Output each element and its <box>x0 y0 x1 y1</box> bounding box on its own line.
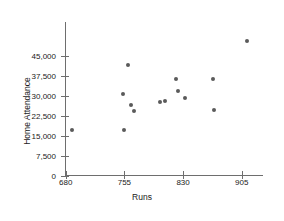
y-tick-37500 <box>61 76 69 77</box>
data-point <box>245 39 249 43</box>
x-axis-title: Runs <box>0 192 284 202</box>
data-point <box>176 89 180 93</box>
x-tick-label-905: 905 <box>235 178 248 187</box>
x-axis-line <box>65 175 263 176</box>
data-point <box>132 109 136 113</box>
data-point <box>211 77 215 81</box>
x-tick-label-680: 680 <box>59 178 72 187</box>
y-tick-label-30000: 30,000 <box>32 92 56 101</box>
data-point <box>163 99 167 103</box>
y-tick-30000 <box>61 96 69 97</box>
data-point <box>121 92 125 96</box>
y-tick-label-0: 0 <box>52 172 56 181</box>
y-tick-22500 <box>61 116 69 117</box>
y-tick-label-22500: 22,500 <box>32 112 56 121</box>
data-point <box>174 77 178 81</box>
y-axis-line <box>65 22 66 176</box>
y-tick-label-37500: 37,500 <box>32 72 56 81</box>
data-point <box>70 128 74 132</box>
plot-area: 07,50015,00022,50030,00037,50045,000 680… <box>0 0 284 221</box>
data-point <box>126 63 130 67</box>
data-point <box>129 103 133 107</box>
y-tick-label-45000: 45,000 <box>32 52 56 61</box>
y-tick-label-7500: 7,500 <box>36 152 56 161</box>
y-tick-7500 <box>61 156 69 157</box>
data-point <box>183 96 187 100</box>
data-point <box>122 128 126 132</box>
scatter-plot-figure: 07,50015,00022,50030,00037,50045,000 680… <box>0 0 284 221</box>
y-tick-15000 <box>61 136 69 137</box>
x-tick-label-755: 755 <box>118 178 131 187</box>
y-axis-title: Home Attendance <box>22 56 32 166</box>
y-tick-45000 <box>61 56 69 57</box>
y-tick-label-15000: 15,000 <box>32 132 56 141</box>
x-tick-label-830: 830 <box>176 178 189 187</box>
data-point <box>212 108 216 112</box>
data-point <box>158 100 162 104</box>
